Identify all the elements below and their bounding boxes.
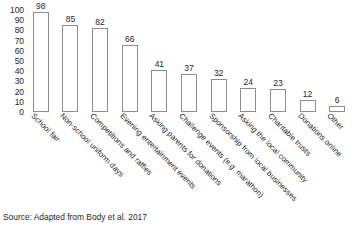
bar [240,88,256,112]
bar-group: 82 [92,10,108,112]
bar-value-label: 98 [26,2,56,11]
y-axis-tick-label: 10 [0,98,24,107]
bar-value-label: 24 [233,78,263,87]
bar-group: 85 [62,10,78,112]
bar-value-label: 41 [144,60,174,69]
bar [151,70,167,112]
bar-value-label: 6 [322,96,352,105]
bar-group: 6 [329,10,345,112]
y-axis-tick-label: 80 [0,26,24,35]
bar-group: 24 [240,10,256,112]
source-note: Source: Adapted from Body et al. 2017 [3,212,147,222]
bar-value-label: 66 [115,35,145,44]
y-axis-tick-label: 90 [0,16,24,25]
x-axis-category-labels: School fairNon-school uniform daysCompet… [26,112,356,208]
bar [122,45,138,112]
bar-group: 41 [151,10,167,112]
x-axis-category-label: Other [326,112,345,131]
y-axis-tick-label: 0 [0,108,24,117]
plot-area: 988582664137322423126 [26,10,352,112]
bar [62,25,78,112]
y-axis-tick-label: 20 [0,88,24,97]
bar-group: 66 [122,10,138,112]
y-axis-tick-label: 30 [0,77,24,86]
y-axis-tick-label: 70 [0,37,24,46]
bar [33,12,49,112]
bar-value-label: 12 [293,90,323,99]
bar-value-label: 32 [204,69,234,78]
bar [181,74,197,112]
bar [92,28,108,112]
bar [211,79,227,112]
bar-group: 37 [181,10,197,112]
y-axis-tick-label: 40 [0,67,24,76]
y-axis-tick-label: 100 [0,6,24,15]
bar-group: 32 [211,10,227,112]
bar-group: 23 [270,10,286,112]
y-axis-tick-label: 60 [0,47,24,56]
x-axis-category-label: School fair [29,112,61,144]
bar-value-label: 37 [174,64,204,73]
bar-group: 12 [300,10,316,112]
bar-value-label: 82 [85,18,115,27]
y-axis-tick-label: 50 [0,57,24,66]
bar-value-label: 85 [55,15,85,24]
y-axis: 1009080706050403020100 [0,10,24,112]
bar-value-label: 23 [263,79,293,88]
bar-group: 98 [33,10,49,112]
bar-chart-figure: 1009080706050403020100 98858266413732242… [0,0,356,228]
bar [270,89,286,112]
